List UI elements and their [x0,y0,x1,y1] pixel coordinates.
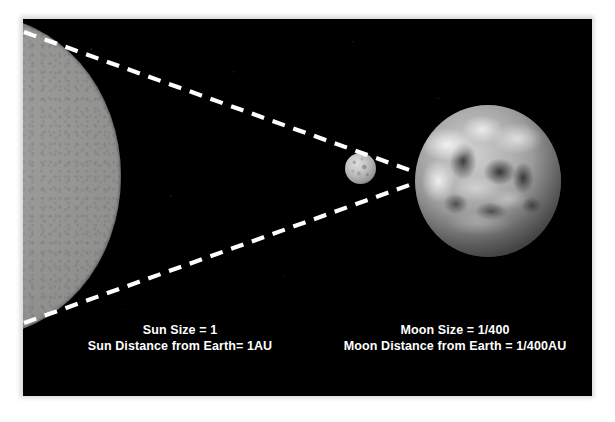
moon-distance-label: Moon Distance from Earth = 1/400AU [295,338,592,354]
moon-sphere [345,153,376,184]
sun-caption: Sun Size = 1 Sun Distance from Earth= 1A… [35,322,325,354]
sun-distance-label: Sun Distance from Earth= 1AU [35,338,325,354]
sun-sphere [23,19,121,336]
moon-caption: Moon Size = 1/400 Moon Distance from Ear… [295,322,592,354]
moon-size-label: Moon Size = 1/400 [295,322,592,338]
earth-limb-shading [415,105,561,257]
space-photo: Sun Size = 1 Sun Distance from Earth= 1A… [23,19,592,396]
sun-size-label: Sun Size = 1 [35,322,325,338]
earth-sphere [415,105,561,257]
sun-granulation-texture [23,19,121,336]
moon-crater-texture [345,153,376,184]
figure-frame: Sun Size = 1 Sun Distance from Earth= 1A… [0,0,615,422]
